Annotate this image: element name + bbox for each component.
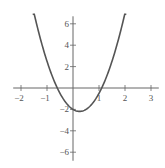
y-tick-label: −6 <box>59 147 69 157</box>
y-tick-label: 2 <box>65 62 70 72</box>
y-tick-label: 4 <box>65 40 70 50</box>
y-tick-label: −2 <box>59 104 69 114</box>
x-tick-label: −1 <box>40 93 50 103</box>
x-tick-label: 2 <box>123 93 128 103</box>
axes <box>13 16 159 160</box>
parabola-chart: −2−1123642−2−4−6 <box>0 0 165 168</box>
y-tick-label: 6 <box>65 19 70 29</box>
x-tick-label: 3 <box>149 93 154 103</box>
y-tick-label: −4 <box>59 126 69 136</box>
x-tick-label: −2 <box>14 93 24 103</box>
